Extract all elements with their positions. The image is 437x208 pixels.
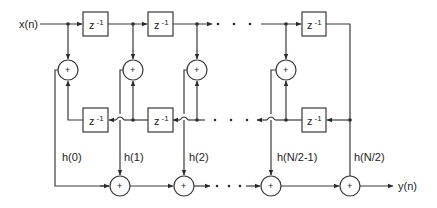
coefficient-h2: h(2) <box>189 151 209 163</box>
svg-text:+: + <box>181 181 186 191</box>
svg-text:+: + <box>347 181 352 191</box>
ellipsis-dot <box>214 119 217 122</box>
coefficient-h0: h(0) <box>62 151 82 163</box>
coefficient-hN2: h(N/2) <box>354 151 385 163</box>
svg-text:+: + <box>283 65 288 75</box>
ellipsis-dot <box>217 23 220 26</box>
ellipsis-dot <box>228 185 231 188</box>
fir-filter-diagram: x(n) z-1 z-1 z-1 + <box>0 0 437 208</box>
svg-text:+: + <box>65 65 70 75</box>
delay-block-top-3: z-1 <box>302 12 326 36</box>
pre-adder-2: + <box>123 60 143 80</box>
delay-block-bottom-3: z-1 <box>302 108 326 132</box>
ellipsis-dot <box>233 23 236 26</box>
svg-text:+: + <box>117 181 122 191</box>
ellipsis-dot <box>216 185 219 188</box>
ellipsis-dot <box>239 185 242 188</box>
delay-block-top-2: z-1 <box>148 12 173 36</box>
ellipsis-dot <box>246 119 249 122</box>
accumulator-adder-3: + <box>261 176 281 196</box>
accumulator-adder-1: + <box>110 176 130 196</box>
delay-block-bottom-2: z-1 <box>148 108 173 132</box>
pre-adder-1: + <box>58 60 78 80</box>
delay-block-top-1: z-1 <box>83 12 108 36</box>
output-label: y(n) <box>398 180 417 192</box>
accumulator-adder-2: + <box>174 176 194 196</box>
ellipsis-dot <box>230 119 233 122</box>
delay-block-bottom-1: z-1 <box>83 108 108 132</box>
pre-adder-3: + <box>187 60 207 80</box>
svg-text:+: + <box>130 65 135 75</box>
coefficient-h1: h(1) <box>124 151 144 163</box>
ellipsis-dot <box>249 23 252 26</box>
input-label: x(n) <box>19 18 38 30</box>
coefficient-hN2m1: h(N/2-1) <box>277 151 317 163</box>
pre-adder-4: + <box>276 60 296 80</box>
svg-text:+: + <box>268 181 273 191</box>
svg-text:+: + <box>194 65 199 75</box>
accumulator-adder-4: + <box>340 176 360 196</box>
